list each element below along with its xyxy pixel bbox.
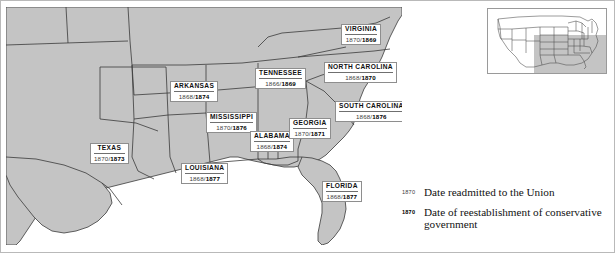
locator-inset xyxy=(487,8,607,74)
state-label-alabama: ALABAMA 1868/1874 xyxy=(250,131,294,152)
southern-states-map: .land{fill:#c4c4c4;stroke:#3a3a3a;stroke… xyxy=(6,7,402,245)
inset-highlight-region xyxy=(534,35,606,73)
state-label-virginia: VIRGINIA 1870/1869 xyxy=(341,24,381,45)
reconstruction-map-figure: .land{fill:#c4c4c4;stroke:#3a3a3a;stroke… xyxy=(0,0,615,253)
state-name-south-carolina: SOUTH CAROLINA xyxy=(339,103,402,111)
state-dates-texas: 1870/1873 xyxy=(94,156,125,162)
state-dates-louisiana: 1868/1877 xyxy=(185,176,224,182)
legend-text-readmitted: Date readmitted to the Union xyxy=(424,186,554,199)
state-label-georgia: GEORGIA 1870/1871 xyxy=(289,118,331,139)
state-dates-tennessee: 1866/1869 xyxy=(259,81,302,87)
state-name-mississippi: MISSISSIPPI xyxy=(210,114,253,122)
legend-item-redeemed: 1870 Date of reestablishment of conserva… xyxy=(402,206,610,231)
state-dates-georgia: 1870/1871 xyxy=(293,131,327,137)
state-dates-arkansas: 1868/1874 xyxy=(174,94,214,100)
state-name-alabama: ALABAMA xyxy=(254,133,290,141)
map-legend: 1870 Date readmitted to the Union 1870 D… xyxy=(402,186,610,238)
state-dates-virginia: 1870/1869 xyxy=(345,37,377,43)
state-name-arkansas: ARKANSAS xyxy=(174,83,214,91)
legend-text-redeemed: Date of reestablishment of conservative … xyxy=(424,206,610,231)
state-dates-mississippi: 1870/1876 xyxy=(210,125,253,131)
state-name-texas: TEXAS xyxy=(94,145,125,153)
state-name-north-carolina: NORTH CAROLINA xyxy=(328,64,393,72)
state-label-north-carolina: NORTH CAROLINA 1868/1870 xyxy=(324,62,397,83)
legend-date-readmitted: 1870 xyxy=(402,186,424,195)
state-name-louisiana: LOUISIANA xyxy=(185,165,224,173)
state-dates-alabama: 1868/1874 xyxy=(254,144,290,150)
state-label-arkansas: ARKANSAS 1868/1874 xyxy=(170,81,218,102)
state-label-louisiana: LOUISIANA 1868/1877 xyxy=(181,163,228,184)
state-label-south-carolina: SOUTH CAROLINA 1868/1876 xyxy=(335,101,402,122)
state-dates-north-carolina: 1868/1870 xyxy=(328,75,393,81)
state-dates-south-carolina: 1868/1876 xyxy=(339,114,402,120)
state-label-florida: FLORIDA 1868/1877 xyxy=(322,181,362,202)
legend-date-redeemed: 1870 xyxy=(402,206,424,215)
state-name-florida: FLORIDA xyxy=(326,183,358,191)
locator-inset-geometry xyxy=(488,9,606,73)
state-label-mississippi: MISSISSIPPI 1870/1876 xyxy=(206,112,257,133)
state-name-tennessee: TENNESSEE xyxy=(259,70,302,78)
legend-item-readmitted: 1870 Date readmitted to the Union xyxy=(402,186,610,199)
state-label-texas: TEXAS 1870/1873 xyxy=(90,143,129,164)
state-dates-florida: 1868/1877 xyxy=(326,194,358,200)
state-name-georgia: GEORGIA xyxy=(293,120,327,128)
state-name-virginia: VIRGINIA xyxy=(345,26,377,34)
state-label-tennessee: TENNESSEE 1866/1869 xyxy=(255,68,306,89)
